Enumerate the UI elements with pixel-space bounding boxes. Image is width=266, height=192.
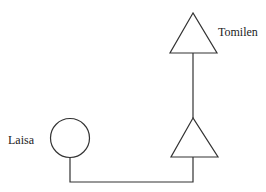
kinship-diagram: Tomilen Laisa [0,0,266,192]
marriage-line [70,157,193,182]
male-symbol-tomilen [170,13,217,53]
male-symbol [171,118,218,157]
label-laisa: Laisa [8,133,35,147]
female-symbol-laisa [51,119,90,158]
label-tomilen: Tomilen [218,25,258,39]
